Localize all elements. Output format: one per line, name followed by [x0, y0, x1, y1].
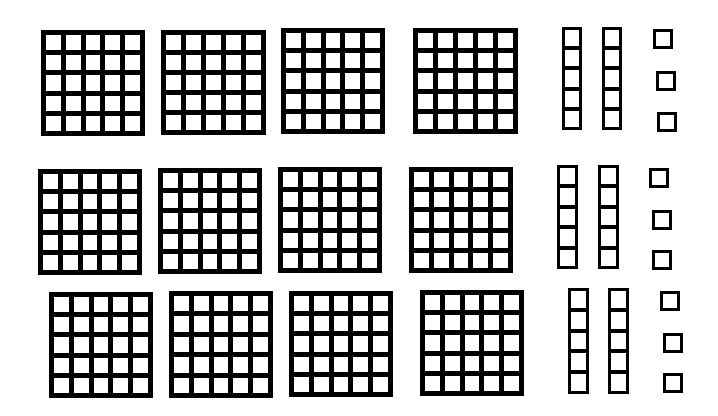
grid-cell [183, 234, 198, 249]
rod-cell [560, 168, 575, 184]
grid-cell [113, 358, 128, 373]
grid-cell [86, 116, 101, 131]
grid-cell [286, 94, 301, 109]
grid-cell [445, 295, 460, 310]
grid-cell [465, 356, 480, 371]
grid-cell [454, 172, 469, 187]
grid-cell [102, 174, 117, 189]
grid-cell [94, 378, 109, 393]
grid-cell [294, 336, 309, 351]
grid-cell [345, 33, 360, 48]
grid-cell [323, 172, 338, 187]
grid-cell [473, 192, 488, 207]
grid-cell [46, 55, 61, 70]
grid-cell [186, 75, 201, 90]
grid-cell [105, 75, 120, 90]
grid-cell [163, 213, 178, 228]
grid-cell [122, 214, 137, 229]
grid-cell [362, 233, 377, 248]
grid-cell [105, 55, 120, 70]
grid-cell [226, 75, 241, 90]
grid-cell [438, 73, 453, 88]
grid-cell [345, 73, 360, 88]
grid-cell [353, 357, 368, 372]
grid-cell [425, 376, 440, 391]
grid-cell [83, 255, 98, 270]
grid-cell [473, 212, 488, 227]
grid-cell [454, 253, 469, 268]
grid-cell [66, 55, 81, 70]
grid-cell [206, 95, 221, 110]
grid-cell [226, 35, 241, 50]
grid-cell [163, 193, 178, 208]
grid-cell [133, 317, 148, 332]
grid-cell [306, 114, 321, 129]
grid-cell [233, 357, 248, 372]
grid-cell [203, 213, 218, 228]
grid-cell [222, 173, 237, 188]
rod-cell [565, 30, 579, 46]
grid-cell [253, 296, 268, 311]
grid-cell [206, 35, 221, 50]
grid-cell [105, 96, 120, 111]
grid-cell [74, 337, 89, 352]
rod-cell [611, 374, 626, 391]
rod-cell [605, 50, 619, 66]
grid-cell [226, 55, 241, 70]
grid-cell [458, 33, 473, 48]
grid-cell [425, 295, 440, 310]
grid-cell [203, 173, 218, 188]
grid-cell [373, 357, 388, 372]
grid-cell [458, 53, 473, 68]
grid-cell [222, 254, 237, 269]
grid-cell [414, 253, 429, 268]
grid-cell [233, 378, 248, 393]
grid-cell [46, 35, 61, 50]
grid-cell [194, 357, 209, 372]
grid-cell [246, 75, 261, 90]
grid-cell [83, 194, 98, 209]
grid-cell [166, 95, 181, 110]
grid-cell [94, 317, 109, 332]
grid-cell [418, 33, 433, 48]
grid-cell [194, 378, 209, 393]
grid-cell [294, 296, 309, 311]
grid-cell [113, 297, 128, 312]
grid-cell [54, 297, 69, 312]
grid-cell [326, 94, 341, 109]
grid-cell [242, 254, 257, 269]
grid-cell [303, 233, 318, 248]
grid-cell [233, 296, 248, 311]
grid-cell [163, 234, 178, 249]
grid-cell [63, 235, 78, 250]
grid-cell [283, 172, 298, 187]
grid-cell [365, 33, 380, 48]
grid-cell [253, 378, 268, 393]
grid-cell [458, 73, 473, 88]
grid-cell [504, 295, 519, 310]
grid-cell [498, 114, 513, 129]
grid-cell [283, 253, 298, 268]
grid-cell [113, 317, 128, 332]
grid-cell [362, 172, 377, 187]
grid-cell [222, 213, 237, 228]
grid-cell [414, 233, 429, 248]
grid-cell [373, 377, 388, 392]
grid-cell [484, 295, 499, 310]
grid-cell [306, 33, 321, 48]
grid-cell [286, 73, 301, 88]
grid-cell [425, 335, 440, 350]
grid-cell [445, 315, 460, 330]
grid-cell [125, 75, 140, 90]
grid-cell [314, 296, 329, 311]
hundred-grid [38, 169, 142, 275]
grid-cell [214, 357, 229, 372]
grid-cell [183, 173, 198, 188]
grid-cell [54, 378, 69, 393]
grid-cell [504, 376, 519, 391]
grid-cell [365, 73, 380, 88]
grid-cell [445, 376, 460, 391]
grid-cell [133, 358, 148, 373]
grid-cell [83, 214, 98, 229]
grid-cell [105, 35, 120, 50]
